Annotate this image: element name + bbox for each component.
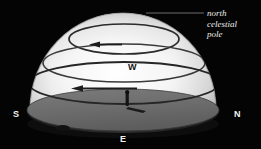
- compass-label-west: W: [128, 63, 137, 72]
- annotation-line-2: celestial: [207, 19, 261, 30]
- north-celestial-pole-annotation: north celestial pole: [207, 8, 261, 40]
- celestial-sphere-diagram: north celestial pole W S N E: [0, 0, 261, 149]
- annotation-line-1: north: [207, 8, 261, 19]
- rim-bump: [56, 125, 70, 131]
- annotation-line-3: pole: [207, 29, 261, 40]
